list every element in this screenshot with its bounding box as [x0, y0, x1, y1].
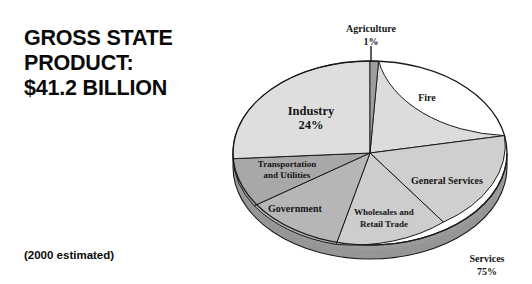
pie-label-wholesales-retail-trade-line2: Retail Trade — [360, 219, 408, 229]
pie-label-agriculture: Agriculture — [346, 23, 396, 34]
pie-label-government: Government — [268, 203, 323, 214]
pie-label-services-percent: 75% — [477, 266, 497, 277]
pie-label-agriculture-percent: 1% — [364, 36, 379, 47]
pie-label-industry: Industry — [288, 104, 335, 118]
chart-page: GROSS STATE PRODUCT: $41.2 BILLION (2000… — [0, 0, 532, 284]
pie-label-fire: Fire — [418, 92, 436, 103]
pie-label-transportation-utilities-line1: Transportation — [258, 159, 316, 169]
pie-label-wholesales-retail-trade-line1: Wholesales and — [354, 207, 414, 217]
pie-label-industry-percent: 24% — [299, 118, 324, 132]
pie-label-transportation-utilities-line2: and Utilities — [264, 170, 311, 180]
pie-slices — [233, 61, 507, 245]
pie-chart: Fire General Services Wholesales and Ret… — [0, 0, 532, 284]
pie-label-general-services: General Services — [411, 175, 483, 186]
pie-label-services: Services — [470, 253, 505, 264]
